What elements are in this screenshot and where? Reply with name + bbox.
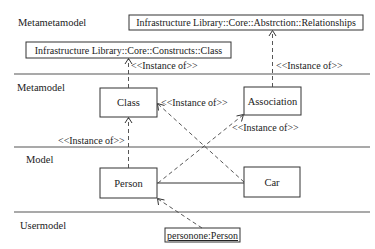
constructs-class-label: Infrastructure Library::Core::Constructs… bbox=[35, 45, 223, 56]
class-label: Class bbox=[117, 97, 140, 108]
car-box[interactable]: Car bbox=[244, 167, 300, 197]
instance-of-personone-to-person bbox=[158, 199, 203, 229]
personone-box[interactable]: personone:Person bbox=[165, 228, 240, 242]
car-label: Car bbox=[264, 177, 280, 188]
relationships-box[interactable]: Infrastructure Library::Core::Abstrction… bbox=[129, 15, 363, 30]
instance-of-label: <<Instance of>> bbox=[232, 122, 299, 133]
instance-of-person-to-class: <<Instance of>> bbox=[58, 118, 132, 169]
constructs-class-box[interactable]: Infrastructure Library::Core::Constructs… bbox=[26, 42, 231, 58]
layer-label-metametamodel: Metametamodel bbox=[18, 17, 86, 28]
relationships-label: Infrastructure Library::Core::Abstrction… bbox=[136, 17, 356, 28]
person-label: Person bbox=[114, 178, 143, 189]
layer-label-metamodel: Metamodel bbox=[17, 82, 65, 93]
instance-of-association-to-relationships: <<Instance of>> bbox=[269, 31, 343, 88]
association-box[interactable]: Association bbox=[244, 87, 301, 115]
instance-of-label: <<Instance of>> bbox=[131, 60, 198, 71]
instance-of-class-to-constructs: <<Instance of>> bbox=[125, 59, 198, 89]
instance-of-label: <<Instance of>> bbox=[161, 97, 228, 108]
instance-of-label: <<Instance of>> bbox=[276, 60, 343, 71]
person-box[interactable]: Person bbox=[100, 168, 157, 198]
metamodel-layers-diagram: Metametamodel Metamodel Model Usermodel … bbox=[0, 0, 375, 249]
class-box[interactable]: Class bbox=[100, 88, 157, 117]
layer-label-usermodel: Usermodel bbox=[20, 220, 66, 231]
personone-label: personone:Person bbox=[167, 230, 238, 241]
instance-of-car-to-class: <<Instance of>> bbox=[158, 97, 245, 182]
association-label: Association bbox=[248, 96, 298, 107]
instance-of-label: <<Instance of>> bbox=[58, 135, 125, 146]
layer-label-model: Model bbox=[26, 154, 53, 165]
